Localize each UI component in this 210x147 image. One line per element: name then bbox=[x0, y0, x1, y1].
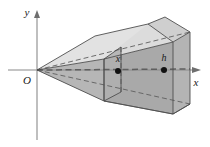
x-axis-label: x bbox=[193, 76, 199, 88]
point-label-x: x bbox=[115, 53, 121, 64]
geometry-figure: O x y x h bbox=[0, 0, 210, 147]
point-dot-x bbox=[115, 68, 121, 74]
origin-label: O bbox=[23, 74, 31, 86]
x-axis-arrow-icon bbox=[192, 67, 201, 73]
figure-canvas: O x y x h bbox=[0, 0, 210, 147]
point-dot-h bbox=[161, 67, 167, 73]
point-label-h: h bbox=[162, 52, 167, 63]
y-axis-label: y bbox=[24, 6, 30, 18]
y-axis-arrow-icon bbox=[34, 10, 40, 18]
